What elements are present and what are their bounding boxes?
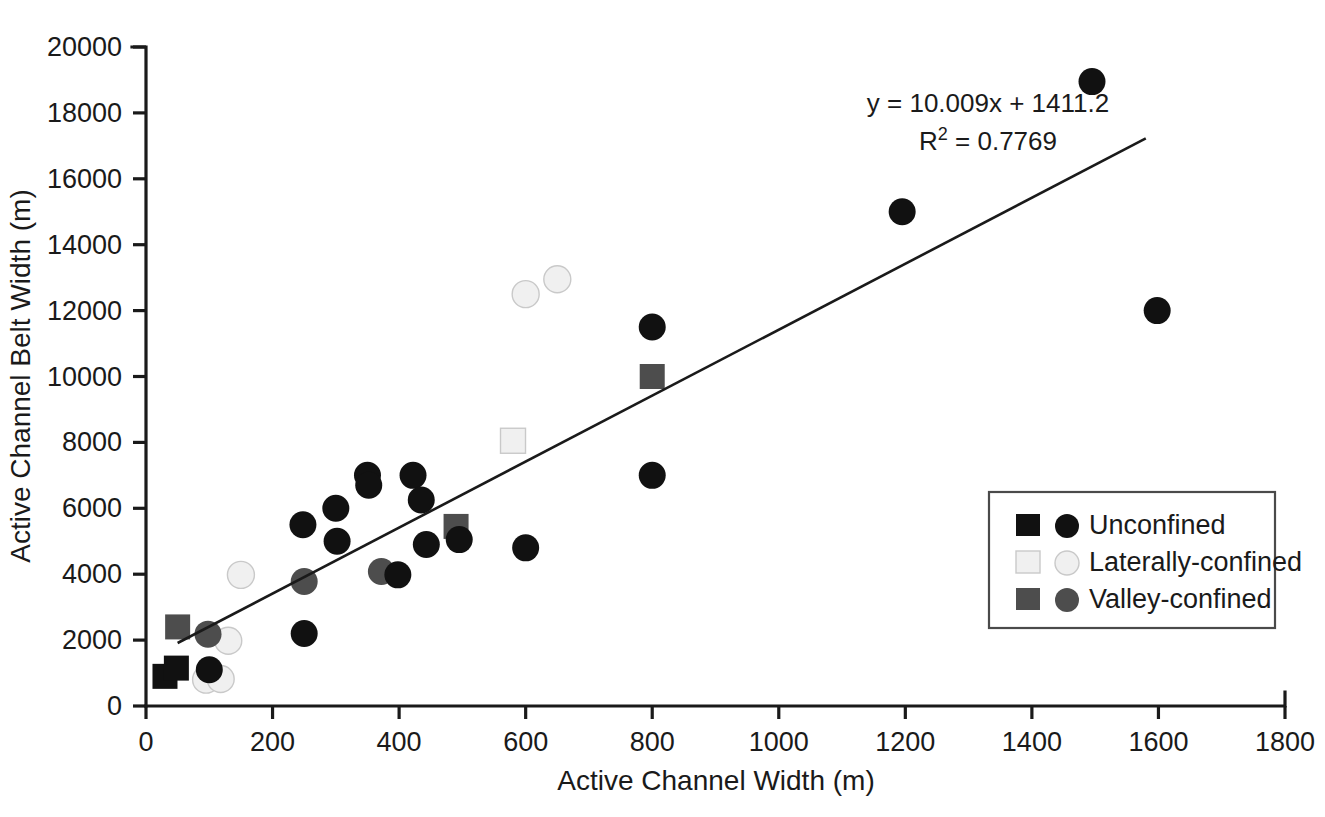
x-axis-ticks: 020040060080010001200140016001800 <box>138 706 1315 757</box>
x-tick-label: 1200 <box>875 727 935 757</box>
x-tick-label: 1000 <box>749 727 809 757</box>
y-axis-ticks: 0200040006000800010000120001400016000180… <box>47 32 146 721</box>
x-tick-label: 1800 <box>1255 727 1315 757</box>
legend-square-marker <box>1016 588 1040 610</box>
data-point-circle <box>1144 297 1171 324</box>
y-tick-label: 6000 <box>62 493 122 523</box>
legend-item-label: Valley-confined <box>1089 584 1272 614</box>
y-tick-label: 2000 <box>62 625 122 655</box>
legend-square-marker <box>1016 551 1040 573</box>
x-axis-title: Active Channel Width (m) <box>557 765 874 796</box>
legend-circle-marker <box>1055 551 1079 575</box>
r-squared-label: R2 = 0.7769 <box>919 124 1057 156</box>
y-tick-label: 0 <box>107 691 122 721</box>
data-point-circle <box>446 526 473 553</box>
data-point-square <box>165 614 190 639</box>
legend-circle-marker <box>1055 514 1079 538</box>
x-tick-label: 1600 <box>1128 727 1188 757</box>
data-point-square <box>640 364 665 389</box>
data-point-circle <box>195 621 222 648</box>
y-tick-label: 12000 <box>47 296 122 326</box>
y-tick-label: 14000 <box>47 230 122 260</box>
r-squared-exponent: 2 <box>938 124 948 144</box>
x-tick-label: 400 <box>377 727 422 757</box>
data-point-circle <box>322 495 349 522</box>
x-tick-label: 800 <box>630 727 675 757</box>
r-squared-prefix: R <box>919 126 938 156</box>
data-point-circle <box>544 266 571 293</box>
y-tick-label: 4000 <box>62 559 122 589</box>
y-tick-label: 8000 <box>62 427 122 457</box>
y-tick-label: 18000 <box>47 98 122 128</box>
regression-equation-label: y = 10.009x + 1411.2 <box>867 88 1109 118</box>
data-point-circle <box>512 281 539 308</box>
data-point-circle <box>291 620 318 647</box>
x-tick-label: 1400 <box>1002 727 1062 757</box>
data-point-circle <box>512 534 539 561</box>
y-tick-label: 20000 <box>47 32 122 62</box>
data-point-circle <box>639 314 666 341</box>
legend-circle-marker <box>1055 588 1079 612</box>
data-point-circle <box>227 561 254 588</box>
data-point-circle <box>889 198 916 225</box>
data-point-circle <box>400 462 427 489</box>
legend-item-label: Unconfined <box>1089 510 1226 540</box>
data-point-square <box>501 428 526 453</box>
data-point-circle <box>639 462 666 489</box>
x-tick-label: 0 <box>138 727 153 757</box>
y-axis-title: Active Channel Belt Width (m) <box>5 189 36 562</box>
data-point-circle <box>355 472 382 499</box>
x-axis-line <box>146 692 1285 706</box>
r-squared-value: = 0.7769 <box>948 126 1057 156</box>
data-point-circle <box>324 528 351 555</box>
data-point-square <box>164 656 189 681</box>
data-point-circle <box>413 531 440 558</box>
scatter-chart: 0200040006000800010000120001400016000180… <box>0 0 1325 817</box>
legend: UnconfinedLaterally-confinedValley-confi… <box>989 492 1302 628</box>
x-tick-label: 200 <box>250 727 295 757</box>
data-point-circle <box>289 511 316 538</box>
data-point-circle <box>408 487 435 514</box>
plot-canvas: 0200040006000800010000120001400016000180… <box>0 0 1325 817</box>
data-point-circle <box>196 656 223 683</box>
y-tick-label: 16000 <box>47 164 122 194</box>
legend-square-marker <box>1016 514 1040 536</box>
x-tick-label: 600 <box>503 727 548 757</box>
legend-item-label: Laterally-confined <box>1089 547 1302 577</box>
y-tick-label: 10000 <box>47 362 122 392</box>
data-point-circle <box>384 561 411 588</box>
